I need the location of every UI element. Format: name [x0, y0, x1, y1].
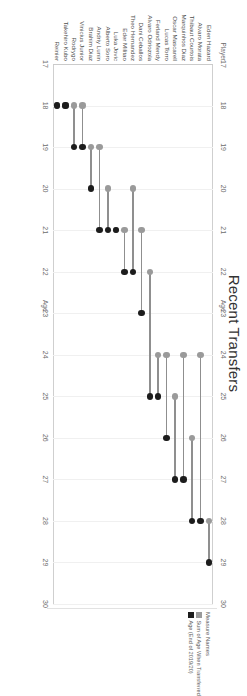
dumbbell-row[interactable]	[191, 64, 192, 604]
data-point-transferred[interactable]	[147, 269, 153, 275]
data-point-transferred[interactable]	[163, 352, 169, 358]
dumbbell-row[interactable]	[166, 64, 167, 604]
x-axis-tick-label: 18	[220, 96, 227, 116]
x-axis-tick-label: 19	[42, 137, 49, 157]
category-label: Rodrygo	[71, 38, 77, 61]
dumbbell-connector	[157, 355, 159, 397]
plot-border-bottom	[53, 64, 54, 604]
x-axis-tick-label: 17	[220, 54, 227, 74]
dumbbell-connector	[166, 355, 168, 438]
dumbbell-row[interactable]	[132, 64, 133, 604]
gridline	[53, 313, 213, 314]
data-point-current[interactable]	[96, 227, 102, 233]
data-point-transferred[interactable]	[130, 185, 136, 191]
x-axis-tick-label: 22	[42, 262, 49, 282]
dumbbell-row[interactable]	[90, 64, 91, 604]
data-point-transferred[interactable]	[138, 227, 144, 233]
x-axis-tick-label: 21	[42, 220, 49, 240]
data-point-transferred[interactable]	[121, 227, 127, 233]
x-axis-tick-label: 30	[42, 594, 49, 614]
data-point-transferred[interactable]	[105, 185, 111, 191]
data-point-current[interactable]	[79, 144, 85, 150]
gridline	[53, 479, 213, 480]
data-point-current[interactable]	[62, 102, 68, 108]
x-axis-tick-label: 24	[42, 345, 49, 365]
x-axis-tick-label: 23	[220, 303, 227, 323]
x-axis-tick-label: 27	[42, 469, 49, 489]
dumbbell-connector	[174, 396, 176, 479]
data-point-transferred[interactable]	[96, 144, 102, 150]
data-point-current[interactable]	[163, 435, 169, 441]
x-axis-tick-label: 24	[220, 345, 227, 365]
dumbbell-row[interactable]	[81, 64, 82, 604]
dumbbell-row[interactable]	[149, 64, 150, 604]
dumbbell-row[interactable]	[73, 64, 74, 604]
x-axis-tick-label: 29	[220, 552, 227, 572]
dumbbell-row[interactable]	[199, 64, 200, 604]
dumbbell-row[interactable]	[56, 64, 57, 604]
dumbbell-row[interactable]	[183, 64, 184, 604]
x-axis-tick-label: 23	[42, 303, 49, 323]
dumbbell-row[interactable]	[157, 64, 158, 604]
x-axis-tick-label: 21	[220, 220, 227, 240]
dumbbell-row[interactable]	[208, 64, 209, 604]
data-point-current[interactable]	[121, 269, 127, 275]
dumbbell-connector	[141, 230, 143, 313]
gridline	[53, 562, 213, 563]
data-point-transferred[interactable]	[71, 102, 77, 108]
category-label: Luka Jovic	[113, 32, 119, 61]
category-label: Oscar Mascarell	[172, 16, 178, 61]
data-point-current[interactable]	[197, 518, 203, 524]
dumbbell-row[interactable]	[174, 64, 175, 604]
gridline	[53, 147, 213, 148]
data-point-current[interactable]	[147, 393, 153, 399]
data-point-current[interactable]	[180, 476, 186, 482]
x-axis-tick-label: 25	[42, 386, 49, 406]
data-point-transferred[interactable]	[79, 102, 85, 108]
x-axis-tick-label: 26	[42, 428, 49, 448]
category-label: Alberto Soro	[105, 27, 111, 61]
data-point-current[interactable]	[206, 559, 212, 565]
x-axis-tick-label: 19	[220, 137, 227, 157]
category-label: Reinier	[54, 41, 60, 61]
x-axis-tick-label: 30	[220, 594, 227, 614]
x-axis-tick-label: 20	[42, 179, 49, 199]
gridline	[53, 396, 213, 397]
data-point-transferred[interactable]	[172, 393, 178, 399]
legend-item[interactable]: Sum of Age When Transferred	[196, 612, 202, 666]
legend-swatch-transferred	[196, 612, 202, 618]
category-label: Eden Hazard	[206, 25, 212, 61]
dumbbell-row[interactable]	[98, 64, 99, 604]
data-point-transferred[interactable]	[197, 352, 203, 358]
category-label: Thibaut Courtois	[189, 16, 195, 61]
dumbbell-connector	[124, 230, 126, 272]
legend-item[interactable]: Age (End of 2019/20)	[188, 612, 194, 666]
data-point-current[interactable]	[172, 476, 178, 482]
dumbbell-row[interactable]	[124, 64, 125, 604]
category-label: Takehiro Kubo	[63, 21, 69, 61]
dumbbell-row[interactable]	[107, 64, 108, 604]
x-axis-tick-label: 28	[220, 511, 227, 531]
dumbbell-connector	[208, 521, 210, 563]
dumbbell-connector	[200, 355, 202, 521]
dumbbell-connector	[99, 147, 101, 230]
category-label: Eder Militao	[121, 28, 127, 61]
gridline	[53, 355, 213, 356]
dumbbell-row[interactable]	[115, 64, 116, 604]
x-axis-tick-label: 28	[42, 511, 49, 531]
legend-divider	[47, 608, 217, 609]
legend-item-label: Sum of Age When Transferred	[196, 621, 202, 696]
dumbbell-connector	[73, 106, 75, 148]
data-point-current[interactable]	[130, 269, 136, 275]
data-point-transferred[interactable]	[206, 518, 212, 524]
category-label: Andriy Lunin	[96, 27, 102, 61]
data-point-current[interactable]	[138, 310, 144, 316]
data-point-current[interactable]	[88, 185, 94, 191]
dumbbell-row[interactable]	[140, 64, 141, 604]
data-point-current[interactable]	[155, 393, 161, 399]
data-point-transferred[interactable]	[180, 352, 186, 358]
category-label: Dani Ceballos	[138, 22, 144, 61]
dumbbell-row[interactable]	[65, 64, 66, 604]
